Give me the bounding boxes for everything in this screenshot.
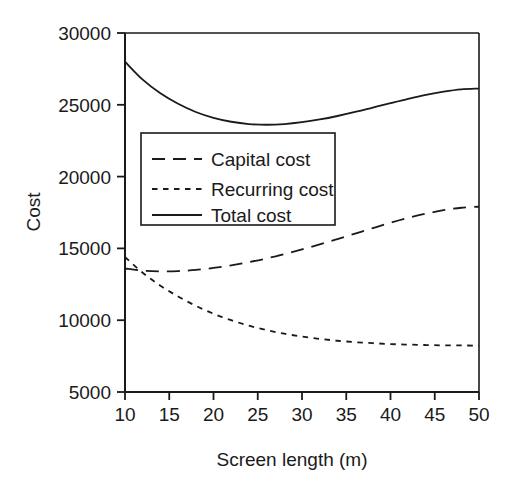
x-tick-label: 15 bbox=[159, 404, 180, 425]
x-tick-label: 30 bbox=[291, 404, 312, 425]
x-tick-label: 40 bbox=[380, 404, 401, 425]
chart-legend: Capital cost Recurring cost Total cost bbox=[141, 133, 335, 226]
y-axis-title: Cost bbox=[23, 192, 44, 232]
x-tick-label: 50 bbox=[468, 404, 489, 425]
y-tick-label: 15000 bbox=[58, 238, 111, 259]
legend-label-total-cost: Total cost bbox=[211, 205, 292, 226]
legend-label-capital-cost: Capital cost bbox=[211, 149, 311, 170]
y-tick-label: 30000 bbox=[58, 23, 111, 44]
x-tick-label: 35 bbox=[336, 404, 357, 425]
series-line-total-cost bbox=[125, 62, 479, 125]
x-tick-label: 45 bbox=[424, 404, 445, 425]
y-tick-label: 10000 bbox=[58, 310, 111, 331]
x-tick-label: 10 bbox=[114, 404, 135, 425]
y-axis-ticks bbox=[117, 33, 125, 392]
chart-svg: 50001000015000200002500030000 1015202530… bbox=[0, 0, 517, 486]
x-axis-tick-labels: 101520253035404550 bbox=[114, 404, 489, 425]
x-tick-label: 25 bbox=[247, 404, 268, 425]
legend-label-recurring-cost: Recurring cost bbox=[211, 179, 334, 200]
y-tick-label: 25000 bbox=[58, 95, 111, 116]
y-tick-label: 20000 bbox=[58, 167, 111, 188]
y-tick-label: 5000 bbox=[69, 382, 111, 403]
y-axis-tick-labels: 50001000015000200002500030000 bbox=[58, 23, 111, 403]
chart-figure: 50001000015000200002500030000 1015202530… bbox=[0, 0, 517, 486]
x-axis-ticks bbox=[125, 392, 479, 400]
x-tick-label: 20 bbox=[203, 404, 224, 425]
x-axis-title: Screen length (m) bbox=[216, 449, 367, 470]
